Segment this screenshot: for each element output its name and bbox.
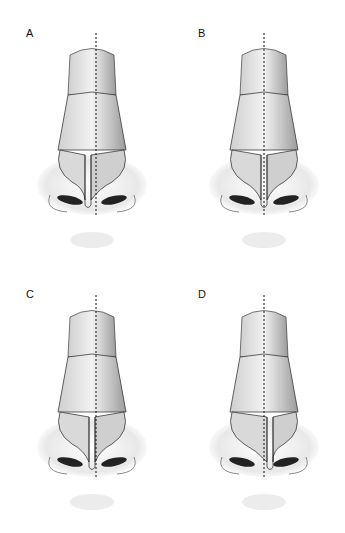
nose-illustration-b	[172, 0, 344, 266]
nose-illustration-d	[172, 266, 344, 532]
panel-b: B	[172, 0, 344, 266]
nose-illustration-c	[0, 266, 172, 532]
panel-c: C	[0, 266, 172, 532]
panel-d: D	[172, 266, 344, 532]
nose-illustration-a	[0, 0, 172, 266]
panel-a: A	[0, 0, 172, 266]
